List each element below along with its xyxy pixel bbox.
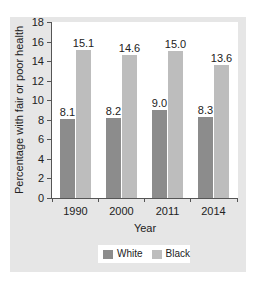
y-tick-label: 8 — [22, 114, 44, 126]
y-tick-label: 6 — [22, 133, 44, 145]
bar-white-1990 — [60, 119, 75, 198]
x-tick — [52, 198, 53, 202]
bar-value-label: 15.1 — [69, 37, 99, 49]
bar-black-2014 — [214, 65, 229, 198]
y-tick-label: 2 — [22, 172, 44, 184]
bar-white-2011 — [152, 110, 167, 198]
bar-white-2014 — [198, 117, 213, 198]
y-tick-label: 18 — [22, 16, 44, 28]
bar-black-2011 — [168, 51, 183, 198]
bar-white-2000 — [106, 118, 121, 198]
legend-swatch-black — [152, 250, 162, 259]
bar-black-2000 — [122, 55, 137, 198]
bar-value-label: 15.0 — [161, 38, 191, 50]
y-tick-label: 0 — [22, 192, 44, 204]
y-axis-line — [51, 22, 52, 199]
x-tick-label: 1990 — [56, 205, 96, 217]
bar-value-label: 14.6 — [115, 42, 145, 54]
x-tick — [144, 198, 145, 202]
legend-swatch-white — [103, 250, 113, 259]
y-tick-label: 14 — [22, 55, 44, 67]
legend: White Black — [98, 245, 190, 263]
bar-black-1990 — [76, 50, 91, 198]
x-tick-label: 2014 — [194, 205, 234, 217]
legend-item-black: Black — [152, 248, 190, 260]
y-tick-label: 10 — [22, 94, 44, 106]
y-tick-label: 16 — [22, 36, 44, 48]
x-tick — [98, 198, 99, 202]
x-tick — [190, 198, 191, 202]
legend-label-white: White — [117, 248, 143, 260]
legend-item-white: White — [103, 248, 143, 260]
y-tick-label: 12 — [22, 75, 44, 87]
y-tick-label: 4 — [22, 153, 44, 165]
legend-label-black: Black — [166, 248, 190, 260]
bar-value-label: 13.6 — [207, 52, 237, 64]
x-tick-label: 2011 — [148, 205, 188, 217]
x-tick-label: 2000 — [102, 205, 142, 217]
x-axis-label: Year — [125, 222, 165, 235]
x-tick — [237, 198, 238, 202]
